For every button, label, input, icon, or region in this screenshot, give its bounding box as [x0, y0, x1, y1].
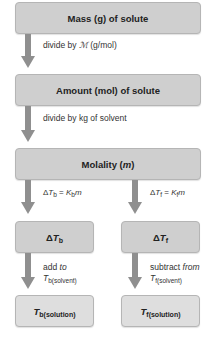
mass-of-solute-label: Mass (g) of solute [68, 13, 149, 24]
down-arrow-icon [21, 180, 35, 214]
down-arrow-icon [21, 106, 35, 142]
tb-solution-label: Tb(solution) [34, 306, 76, 317]
down-arrow-icon [21, 34, 35, 68]
down-arrow-icon [128, 253, 142, 289]
down-arrow-icon [128, 180, 142, 214]
molality-box: Molality (m) [15, 148, 201, 180]
freezing-point-depression-equation: ΔTf = Kfm [150, 187, 185, 198]
molality-label: Molality (m) [82, 159, 135, 170]
delta-tb-box: ΔTb [15, 221, 94, 253]
mass-of-solute-box: Mass (g) of solute [15, 2, 201, 34]
flowchart: Mass (g) of solute divide by ℳ (g/mol) A… [0, 0, 214, 347]
delta-tf-box: ΔTf [121, 221, 200, 253]
add-to-solvent-bp-label: add to Tb(solvent) [43, 262, 77, 284]
down-arrow-icon [21, 253, 35, 289]
delta-tb-label: ΔTb [46, 232, 63, 243]
tf-solution-label: Tf(solution) [140, 306, 180, 317]
tf-solution-box: Tf(solution) [121, 295, 200, 327]
subtract-from-solvent-fp-label: subtract from Tf(solvent) [150, 262, 200, 284]
delta-tf-label: ΔTf [153, 232, 168, 243]
amount-of-solute-box: Amount (mol) of solute [15, 74, 201, 106]
divide-by-kg-solvent-label: divide by kg of solvent [43, 113, 127, 124]
amount-of-solute-label: Amount (mol) of solute [56, 85, 160, 96]
divide-by-molar-mass-label: divide by ℳ (g/mol) [43, 40, 117, 51]
tb-solution-box: Tb(solution) [15, 295, 94, 327]
boiling-point-elevation-equation: ΔTb = Kbm [43, 187, 82, 198]
